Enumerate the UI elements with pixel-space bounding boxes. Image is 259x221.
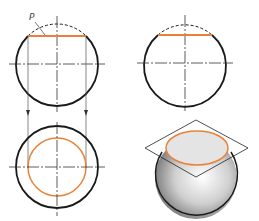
top-view [9, 122, 105, 216]
plane-leader-line [35, 22, 45, 35]
section-ellipse [166, 131, 228, 165]
side-view [137, 15, 233, 111]
arrow-down-icon [26, 110, 30, 116]
arrow-down-icon [84, 110, 88, 116]
plane-label: P [29, 12, 35, 22]
sphere-section-diagram: P [0, 0, 259, 221]
isometric-view [145, 120, 248, 221]
front-view: P [9, 12, 105, 112]
